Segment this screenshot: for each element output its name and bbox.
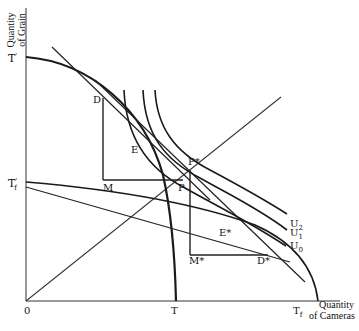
label-U0: U0 (290, 240, 303, 254)
svg-text:T'f: T'f (8, 177, 18, 192)
y-axis-title: Quantity of Grain (5, 13, 27, 48)
svg-text:U0: U0 (290, 240, 303, 254)
label-P-star: P* (188, 156, 200, 167)
label-E: E (131, 144, 138, 155)
trade-diagram: Quantity of Grain Quantity of Cameras T'… (0, 0, 359, 331)
label-M: M (103, 182, 113, 193)
label-D: D (93, 94, 101, 105)
svg-text:Tf: Tf (293, 305, 304, 319)
tick-T-f: Tf (293, 305, 304, 319)
y-axis-title-line1: Quantity (5, 13, 16, 48)
x-axis-title-line2: of Cameras (309, 310, 355, 321)
tick-T-prime-f: T'f (8, 177, 18, 192)
label-P: P (178, 182, 185, 193)
label-M-star: M* (189, 255, 204, 266)
label-D-star: D* (257, 255, 270, 266)
svg-text:T': T' (8, 52, 17, 65)
origin-label: 0 (24, 305, 30, 316)
indifference-curve-u1 (143, 90, 287, 230)
tick-T-prime-top: T' (8, 52, 17, 65)
price-line-1 (52, 47, 210, 200)
tick-T: T (171, 305, 178, 316)
y-axis-title-line2: of Grain (16, 13, 27, 47)
label-E-star: E* (219, 227, 231, 238)
